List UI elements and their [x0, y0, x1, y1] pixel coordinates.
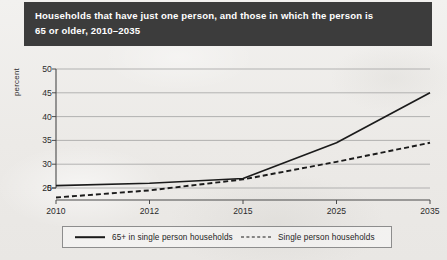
- series-line-65plus: [56, 93, 430, 186]
- plot-area: [0, 0, 447, 260]
- legend-label-single-person: Single person households: [278, 233, 375, 242]
- series-line-single-person: [56, 143, 430, 198]
- chart-legend: 65+ in single person households Single p…: [62, 226, 392, 248]
- legend-label-65plus: 65+ in single person households: [112, 233, 233, 242]
- line-chart: percent 0253035404550 201020122015202520…: [0, 0, 447, 260]
- dashed-line-swatch-icon: [241, 233, 271, 241]
- legend-item-65plus: 65+ in single person households: [75, 227, 233, 247]
- solid-line-swatch-icon: [75, 233, 105, 241]
- legend-item-single-person: Single person households: [241, 227, 375, 247]
